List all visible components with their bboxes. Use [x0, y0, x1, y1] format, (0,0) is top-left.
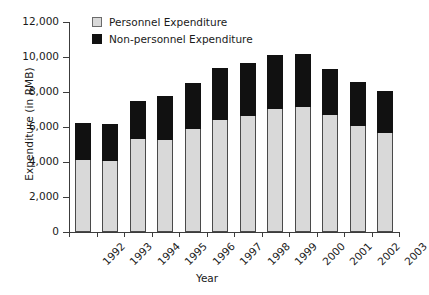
x-axis-tick-label: 2000 [320, 240, 347, 267]
chart-legend: Personnel Expenditure Non-personnel Expe… [92, 14, 253, 48]
x-axis-title: Year [0, 272, 414, 284]
bar-segment-nonpersonnel[interactable] [240, 63, 256, 116]
y-axis-tick-label: 6,000 [1, 120, 59, 132]
x-axis-tick-label: 1997 [237, 240, 264, 267]
bar-segment-nonpersonnel[interactable] [267, 55, 283, 108]
bar-segment-nonpersonnel[interactable] [322, 69, 338, 116]
x-axis-tick-mark [262, 232, 263, 237]
x-axis-tick-mark [317, 232, 318, 237]
bar-segment-personnel[interactable] [295, 107, 311, 232]
y-axis-tick-mark [63, 22, 69, 23]
x-axis-tick-mark [289, 232, 290, 237]
plot-area: 02,0004,0006,0008,00010,00012,000 199219… [69, 22, 399, 232]
bar-segment-personnel[interactable] [130, 139, 146, 232]
bar-segment-personnel[interactable] [75, 160, 91, 232]
x-axis-tick-label: 2002 [375, 240, 402, 267]
bar-segment-nonpersonnel[interactable] [102, 124, 118, 161]
y-axis-tick-label: 0 [1, 225, 59, 237]
bar-segment-personnel[interactable] [322, 115, 338, 232]
bar-segment-nonpersonnel[interactable] [75, 123, 91, 161]
y-axis-tick-mark [63, 162, 69, 163]
x-axis-tick-label: 1993 [127, 240, 154, 267]
legend-label-nonpersonnel: Non-personnel Expenditure [109, 33, 253, 45]
y-axis-tick-label: 12,000 [1, 15, 59, 27]
x-axis-tick-mark [399, 232, 400, 237]
y-axis-tick-label: 10,000 [1, 50, 59, 62]
y-axis-tick-mark [63, 57, 69, 58]
bar-segment-nonpersonnel[interactable] [157, 96, 173, 140]
y-axis-tick-label: 2,000 [1, 190, 59, 202]
x-axis-tick-mark [207, 232, 208, 237]
bar-segment-personnel[interactable] [185, 129, 201, 232]
y-axis-tick-mark [63, 197, 69, 198]
bar-segment-personnel[interactable] [157, 140, 173, 232]
bar-segment-nonpersonnel[interactable] [185, 83, 201, 129]
x-axis-tick-mark [152, 232, 153, 237]
legend-item-nonpersonnel: Non-personnel Expenditure [92, 31, 253, 46]
x-axis-tick-mark [69, 232, 70, 237]
x-axis-tick-mark [97, 232, 98, 237]
x-axis-tick-mark [372, 232, 373, 237]
y-axis-tick-mark [63, 92, 69, 93]
x-axis-tick-mark [124, 232, 125, 237]
x-axis-tick-mark [179, 232, 180, 237]
bar-segment-nonpersonnel[interactable] [377, 91, 393, 133]
y-axis-tick-mark [63, 127, 69, 128]
x-axis-tick-label: 1994 [155, 240, 182, 267]
x-axis-tick-label: 1995 [182, 240, 209, 267]
bar-segment-nonpersonnel[interactable] [295, 54, 311, 108]
x-axis-tick-label: 2003 [402, 240, 429, 267]
x-axis-tick-label: 1996 [210, 240, 237, 267]
bar-segment-personnel[interactable] [212, 120, 228, 232]
x-axis-tick-label: 2001 [347, 240, 374, 267]
legend-swatch-personnel-icon [92, 17, 102, 27]
x-axis-tick-mark [344, 232, 345, 237]
bar-segment-personnel[interactable] [377, 133, 393, 232]
bar-segment-personnel[interactable] [350, 126, 366, 232]
legend-swatch-nonpersonnel-icon [92, 34, 102, 44]
x-axis-tick-mark [234, 232, 235, 237]
bar-segment-nonpersonnel[interactable] [212, 68, 228, 120]
x-axis-tick-label: 1992 [100, 240, 127, 267]
legend-item-personnel: Personnel Expenditure [92, 14, 253, 29]
bar-segment-personnel[interactable] [267, 109, 283, 232]
bar-segment-nonpersonnel[interactable] [130, 101, 146, 140]
bar-segment-nonpersonnel[interactable] [350, 82, 366, 126]
bar-segment-personnel[interactable] [102, 161, 118, 232]
x-axis-tick-label: 1999 [292, 240, 319, 267]
x-axis-tick-label: 1998 [265, 240, 292, 267]
y-axis-line [69, 22, 70, 232]
y-axis-tick-label: 8,000 [1, 85, 59, 97]
bar-segment-personnel[interactable] [240, 116, 256, 232]
y-axis-tick-label: 4,000 [1, 155, 59, 167]
legend-label-personnel: Personnel Expenditure [109, 16, 227, 28]
